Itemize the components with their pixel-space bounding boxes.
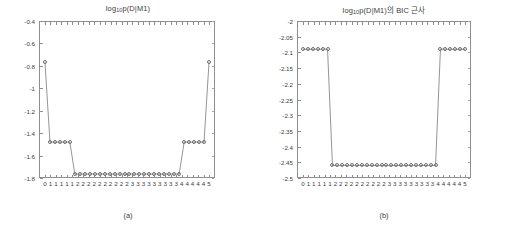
y-tick-label: -1.8 [0,175,35,182]
data-point-marker [167,172,171,176]
x-tick-mark-top [198,22,199,25]
data-point-marker [350,163,354,167]
x-tick-mark-top [138,22,139,25]
x-tick-label: 4 [447,180,450,187]
x-tick-mark-top [116,22,117,25]
data-point-marker [316,47,320,51]
x-tick-mark-top [379,22,380,25]
data-point-marker [172,172,176,176]
x-tick-label: 2 [382,180,385,187]
x-tick-label: 0 [301,180,304,187]
x-tick-label: 5 [207,180,210,187]
y-tick-label: -2.25 [256,96,293,103]
data-point-marker [375,163,379,167]
x-tick-mark [325,175,326,178]
data-point-marker [340,163,344,167]
data-point-marker [404,163,408,167]
x-tick-mark-top [72,22,73,25]
data-point-marker [78,172,82,176]
data-point-marker [384,163,388,167]
x-tick-mark [443,175,444,178]
x-tick-mark-top [346,22,347,25]
x-tick-mark-top [143,22,144,25]
y-tick-mark-right [468,21,470,22]
x-tick-label: 4 [180,180,183,187]
x-tick-mark-top [330,22,331,25]
y-tick-mark [298,131,301,132]
data-point-marker [103,172,107,176]
y-tick-label: -2.5 [256,175,293,182]
y-tick-mark-right [468,147,470,148]
x-tick-mark-top [89,22,90,25]
data-point-marker [394,163,398,167]
data-point-marker [311,47,315,51]
chart-title-a: log10p(D|M1) [0,4,256,13]
x-tick-mark-top [362,22,363,25]
x-tick-mark-top [352,22,353,25]
data-point-marker [321,47,325,51]
x-tick-label: 2 [76,180,79,187]
x-tick-mark [193,175,194,178]
y-tick-mark [40,43,43,44]
x-tick-label: 2 [366,180,369,187]
x-tick-mark-top [176,22,177,25]
x-tick-label: 3 [393,180,396,187]
x-tick-label: 0 [43,180,46,187]
x-tick-mark [341,175,342,178]
x-tick-label: 2 [371,180,374,187]
data-point-marker [137,172,141,176]
x-tick-label: 3 [409,180,412,187]
y-tick-label: -0.8 [0,62,35,69]
x-tick-mark-top [100,22,101,25]
data-point-marker [345,163,349,167]
figure-container: log10p(D|M1) -0.4-0.6-0.8-1-1.2-1.4-1.6-… [0,0,512,232]
data-point-marker [370,163,374,167]
x-tick-mark [319,175,320,178]
x-tick-label: 3 [131,180,134,187]
x-tick-mark-top [427,22,428,25]
x-tick-label: 4 [452,180,455,187]
x-tick-mark [198,175,199,178]
data-point-marker [389,163,393,167]
data-point-marker [58,140,62,144]
data-point-marker [414,163,418,167]
data-point-marker [448,47,452,51]
x-tick-label: 4 [458,180,461,187]
chart-panel-a: log10p(D|M1) -0.4-0.6-0.8-1-1.2-1.4-1.6-… [0,0,256,232]
x-tick-label: 3 [425,180,428,187]
x-tick-mark [50,175,51,178]
y-tick-mark [298,21,301,22]
data-point-marker [419,163,423,167]
x-tick-label: 1 [323,180,326,187]
y-tick-mark-right [212,111,214,112]
x-tick-label: 2 [355,180,358,187]
data-point-marker [399,163,403,167]
x-tick-label: 4 [442,180,445,187]
y-tick-label: -2.35 [256,127,293,134]
chart-title-b-prefix: log [343,6,353,15]
y-tick-mark-right [212,156,214,157]
x-tick-mark [303,175,304,178]
y-tick-mark [40,21,43,22]
data-point-marker [429,163,433,167]
y-tick-mark [298,84,301,85]
data-point-marker [113,172,117,176]
x-tick-mark [182,175,183,178]
data-point-marker [43,60,47,64]
x-tick-label: 2 [120,180,123,187]
data-point-marker [93,172,97,176]
x-tick-label: 3 [169,180,172,187]
data-point-marker [463,47,467,51]
x-tick-label: 3 [398,180,401,187]
x-tick-label: 2 [109,180,112,187]
x-tick-mark-top [395,22,396,25]
y-tick-mark [40,156,43,157]
data-point-marker [162,172,166,176]
x-tick-mark [111,175,112,178]
x-tick-mark-top [465,22,466,25]
data-point-marker [458,47,462,51]
x-tick-label: 1 [54,180,57,187]
x-tick-label: 4 [196,180,199,187]
data-point-marker [118,172,122,176]
x-tick-mark-top [357,22,358,25]
